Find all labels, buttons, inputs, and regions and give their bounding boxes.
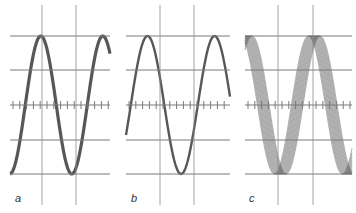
panel-label-c: c (249, 192, 255, 204)
oscilloscope-figure (0, 0, 356, 213)
panel-label-b: b (131, 192, 137, 204)
panel-label-a: a (15, 192, 21, 204)
